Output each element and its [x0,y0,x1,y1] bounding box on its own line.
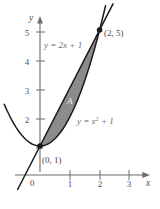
x-tick-label-2: 2 [98,179,103,189]
parabola-equation-label: y = x2 + 1 [76,115,114,126]
y-tick-label-5: 5 [25,28,30,38]
y-tick-label-2: 2 [25,115,30,125]
region-label-A: A [66,96,73,106]
point-0-1-marker [37,143,43,149]
point-label-2-5: (2, 5) [104,28,124,38]
line-equation-label: y = 2x + 1 [43,40,82,50]
parabola-equation-tail: + 1 [101,116,114,126]
y-axis-arrowhead [37,16,43,24]
y-tick-label-3: 3 [25,86,30,96]
parabola-equation-lhs: y = x [76,116,96,126]
y-axis-label: y [28,13,34,23]
origin-label: 0 [30,178,35,188]
graph-canvas: y x 0 5 4 3 2 1 2 3 y = 2x + 1 y = x2 + … [0,0,160,209]
x-tick-label-3: 3 [127,179,132,189]
x-axis-label: x [145,178,151,188]
y-tick-label-4: 4 [25,57,30,67]
point-label-0-1: (0, 1) [42,155,62,165]
x-tick-label-1: 1 [68,179,73,189]
figure-container: y x 0 5 4 3 2 1 2 3 y = 2x + 1 y = x2 + … [0,0,160,209]
point-2-5-marker [97,27,103,33]
